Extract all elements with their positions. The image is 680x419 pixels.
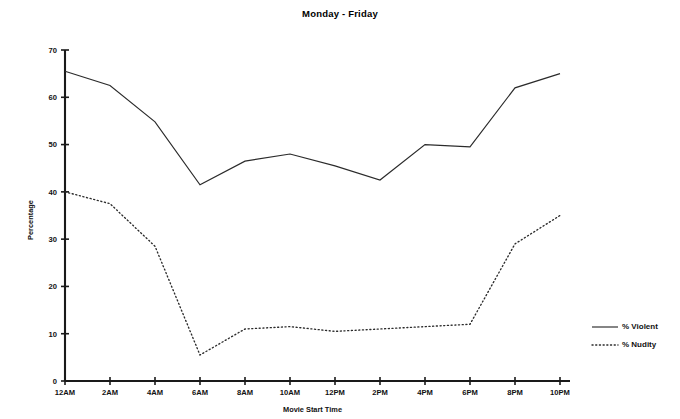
x-axis-tick-label: 12AM	[55, 388, 75, 397]
x-axis-tick-label: 6PM	[462, 388, 478, 397]
y-axis-tick-label: 10	[49, 330, 57, 339]
y-axis-tick-label: 20	[49, 282, 57, 291]
y-axis-tick-label: 0	[53, 377, 57, 386]
x-axis-tick-label: 6AM	[192, 388, 208, 397]
y-axis-tick-label: 50	[49, 140, 57, 149]
y-axis-tick-label: 30	[49, 235, 57, 244]
y-axis-tick-label: 70	[49, 46, 57, 55]
x-axis-tick-label: 4PM	[417, 388, 433, 397]
series-line-2	[65, 192, 560, 355]
x-axis-tick-label: 10PM	[550, 388, 570, 397]
x-axis-tick-label: 2AM	[102, 388, 118, 397]
x-axis-tick-label: 8PM	[507, 388, 523, 397]
y-axis-title: Percentage	[26, 200, 35, 240]
x-axis-tick-label: 2PM	[372, 388, 388, 397]
y-axis-tick-label: 40	[49, 188, 57, 197]
x-axis-tick-label: 8AM	[237, 388, 253, 397]
legend-label-1: % Violent	[622, 322, 658, 331]
x-axis-tick-label: 4AM	[147, 388, 163, 397]
chart-svg: 01020304050607012AM2AM4AM6AM8AM10AM12PM2…	[0, 0, 680, 419]
chart-container: Monday - Friday 01020304050607012AM2AM4A…	[0, 0, 680, 419]
x-axis-tick-label: 12PM	[325, 388, 345, 397]
x-axis-title: Movie Start Time	[283, 405, 342, 414]
legend-label-2: % Nudity	[622, 340, 657, 349]
x-axis-tick-label: 10AM	[280, 388, 300, 397]
series-line-1	[65, 71, 560, 184]
y-axis-tick-label: 60	[49, 93, 57, 102]
